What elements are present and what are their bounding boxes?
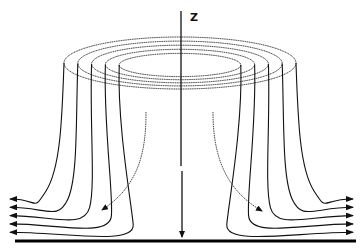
z-axis-label: Z — [190, 11, 198, 24]
streamline — [268, 64, 353, 220]
vortex-ring — [105, 49, 254, 79]
streamline — [10, 64, 78, 212]
streamline — [10, 65, 133, 237]
vortex-rings — [64, 37, 296, 89]
streamlines-right — [227, 63, 353, 237]
vortex-ring — [119, 53, 241, 76]
streamline — [10, 64, 92, 220]
streamline — [227, 65, 353, 237]
vortex-flow-diagram: Z — [0, 0, 361, 252]
streamline — [282, 64, 353, 212]
streamline — [10, 65, 112, 229]
streamline — [10, 63, 64, 203]
vortex-ring — [92, 45, 269, 83]
vortex-ring — [78, 41, 282, 86]
streamline — [296, 63, 353, 203]
inner-streamline-right — [213, 112, 262, 211]
streamlines-left — [10, 63, 133, 237]
